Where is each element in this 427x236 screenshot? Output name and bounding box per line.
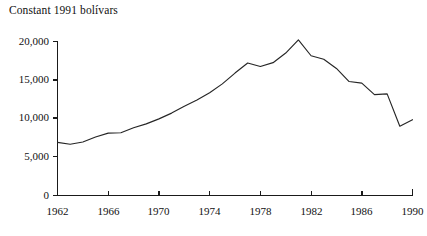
- x-axis-label-1986: 1986: [341, 206, 382, 217]
- y-tick-marks: [53, 42, 58, 196]
- y-axis-label-15000: 15,000: [0, 74, 49, 85]
- x-axis-label-1974: 1974: [189, 206, 230, 217]
- x-axis-label-1990: 1990: [392, 206, 427, 217]
- axes-group: [58, 42, 413, 196]
- x-axis-label-1982: 1982: [291, 206, 332, 217]
- y-axis-label-0: 0: [0, 190, 49, 201]
- x-axis-label-1966: 1966: [88, 206, 129, 217]
- chart-figure: Constant 1991 bolívars 20,000 15,000 10,…: [0, 0, 427, 236]
- y-axis-label-5000: 5,000: [0, 151, 49, 162]
- x-tick-marks: [58, 189, 413, 196]
- y-axis-label-20000: 20,000: [0, 36, 49, 47]
- data-series-line: [58, 40, 413, 144]
- x-axis-label-1978: 1978: [240, 206, 281, 217]
- x-axis-label-1962: 1962: [37, 206, 78, 217]
- y-axis-label-10000: 10,000: [0, 112, 49, 123]
- line-chart-plot: [0, 0, 427, 236]
- x-axis-label-1970: 1970: [138, 206, 179, 217]
